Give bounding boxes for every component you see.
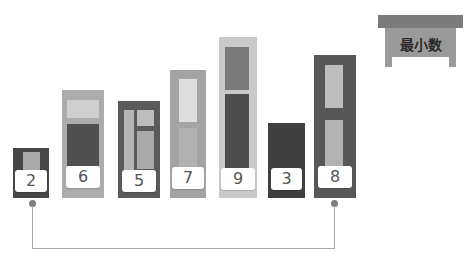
bar-column-4: 7 <box>170 70 206 198</box>
value-label: 3 <box>271 168 302 190</box>
bar-inner-block <box>67 100 99 118</box>
connector-line-right <box>334 206 335 249</box>
connector-line-left <box>32 206 33 249</box>
table-icon: 最小数 <box>378 15 463 67</box>
bar-inner-block <box>179 128 197 168</box>
bar-inner-block <box>137 110 154 126</box>
value-label: 5 <box>122 170 156 192</box>
bar-column-7: 8 <box>314 55 356 198</box>
min-number-label: 最小数 <box>385 34 456 54</box>
bar-inner-block <box>225 47 249 90</box>
table-leg-right <box>449 57 456 67</box>
bar-column-1: 2 <box>13 148 49 198</box>
value-label: 9 <box>221 168 255 190</box>
bar-inner-block <box>179 79 197 122</box>
value-label: 6 <box>66 166 100 188</box>
value-label: 8 <box>318 166 352 188</box>
table-top <box>378 15 463 28</box>
bar-inner-block <box>67 124 99 166</box>
value-label: 7 <box>172 167 204 189</box>
bar-column-3: 5 <box>118 101 160 198</box>
bar-column-5: 9 <box>219 37 257 198</box>
bar-inner-block <box>137 131 154 169</box>
bar-inner-block <box>225 94 249 168</box>
value-label: 2 <box>15 170 47 192</box>
connector-line-bottom <box>32 248 335 249</box>
bar-column-6: 3 <box>268 123 305 198</box>
bar-inner-block <box>325 65 343 108</box>
table-leg-left <box>385 57 392 67</box>
bar-inner-block <box>325 120 343 166</box>
bar-column-2: 6 <box>62 90 104 198</box>
bar-inner-block <box>23 152 40 172</box>
